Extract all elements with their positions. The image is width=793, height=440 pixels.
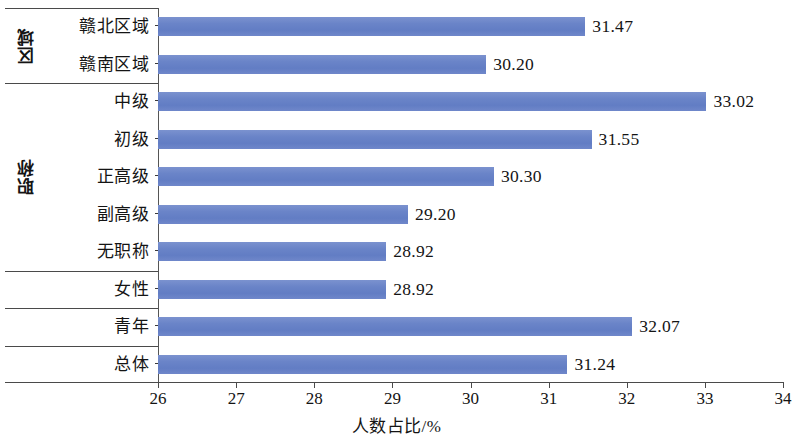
bar-row: 33.02: [158, 83, 783, 121]
y-axis-group-separator: [5, 83, 158, 84]
bar[interactable]: [158, 317, 632, 336]
bar-value-label: 30.30: [501, 167, 542, 186]
y-axis-category-label: 初级: [114, 121, 149, 159]
bar-row: 30.30: [158, 158, 783, 196]
y-axis-category-label: 女性: [114, 271, 149, 309]
x-axis-tick-label: 29: [372, 389, 412, 409]
plot-area: 31.4730.2033.0231.5530.3029.2028.9228.92…: [158, 8, 783, 382]
y-axis-group-label: 职称: [9, 83, 43, 271]
bar[interactable]: [158, 167, 494, 186]
y-axis-category-label: 副高级: [97, 196, 150, 234]
y-axis-category-label: 青年: [114, 308, 149, 346]
y-axis-category-label: 正高级: [97, 158, 150, 196]
y-axis-category-label: 无职称: [97, 233, 150, 271]
y-axis-category-label: 总体: [114, 346, 149, 384]
x-axis-tick-label: 31: [529, 389, 569, 409]
bar[interactable]: [158, 130, 592, 149]
x-axis-title: 人数占比/%: [0, 412, 793, 437]
x-axis-tick: [783, 382, 784, 388]
x-axis-tick: [549, 382, 550, 388]
bar-value-label: 28.92: [393, 242, 434, 261]
bar[interactable]: [158, 92, 706, 111]
bar-value-label: 33.02: [713, 92, 754, 111]
y-axis-label-column: 区域赣北区域赣南区域职称中级初级正高级副高级无职称女性青年总体: [0, 0, 158, 382]
bar-value-label: 31.55: [599, 130, 640, 149]
x-axis-tick-label: 26: [138, 389, 178, 409]
bar-row: 30.20: [158, 46, 783, 84]
bar-value-label: 31.24: [574, 355, 615, 374]
horizontal-bar-chart: 区域赣北区域赣南区域职称中级初级正高级副高级无职称女性青年总体 31.4730.…: [0, 0, 793, 440]
bar-row: 31.24: [158, 346, 783, 384]
bar-row: 29.20: [158, 196, 783, 234]
x-axis-tick-label: 33: [685, 389, 725, 409]
bar[interactable]: [158, 355, 567, 374]
x-axis-tick: [158, 382, 159, 388]
y-axis-group: 职称中级初级正高级副高级无职称: [5, 83, 158, 271]
bar[interactable]: [158, 55, 486, 74]
y-axis-group: 总体: [5, 346, 158, 384]
x-axis-tick: [236, 382, 237, 388]
y-axis-group-separator: [5, 8, 158, 9]
y-axis-group-label: 区域: [9, 8, 43, 83]
bar[interactable]: [158, 242, 386, 261]
y-axis-category-label: 中级: [114, 83, 149, 121]
x-axis-line: [5, 382, 784, 383]
bar[interactable]: [158, 205, 408, 224]
y-axis-group: 女性: [5, 271, 158, 309]
x-axis-tick-label: 32: [607, 389, 647, 409]
y-axis-category-label: 赣南区域: [79, 46, 149, 84]
bar-value-label: 32.07: [639, 317, 680, 336]
bar-value-label: 28.92: [393, 280, 434, 299]
x-axis-tick: [392, 382, 393, 388]
x-axis-tick: [314, 382, 315, 388]
x-axis-tick: [471, 382, 472, 388]
bar-row: 28.92: [158, 271, 783, 309]
x-axis-tick-label: 28: [294, 389, 334, 409]
y-axis-group-separator: [5, 346, 158, 347]
x-axis-tick-label: 34: [763, 389, 793, 409]
y-axis-group: 青年: [5, 308, 158, 346]
bar-value-label: 30.20: [493, 55, 534, 74]
y-axis-group: 区域赣北区域赣南区域: [5, 8, 158, 83]
x-axis-tick-label: 30: [451, 389, 491, 409]
y-axis-group-separator: [5, 271, 158, 272]
x-axis-tick: [705, 382, 706, 388]
bar-value-label: 31.47: [592, 17, 633, 36]
x-axis-tick: [627, 382, 628, 388]
y-axis-group-separator: [5, 308, 158, 309]
bar[interactable]: [158, 17, 585, 36]
bar-row: 32.07: [158, 308, 783, 346]
y-axis-category-label: 赣北区域: [79, 8, 149, 46]
bar-value-label: 29.20: [415, 205, 456, 224]
bar-row: 28.92: [158, 233, 783, 271]
bar-row: 31.55: [158, 121, 783, 159]
bar-row: 31.47: [158, 8, 783, 46]
bar[interactable]: [158, 280, 386, 299]
x-axis-tick-label: 27: [216, 389, 256, 409]
